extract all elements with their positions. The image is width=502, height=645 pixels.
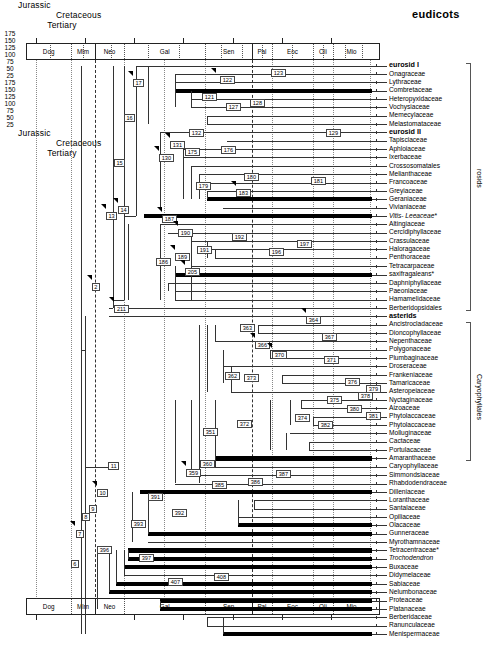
taxon-tip-mark-19 xyxy=(376,223,377,226)
node-2[interactable]: 2 xyxy=(92,283,100,291)
epoch-divider-bottom-mlm xyxy=(71,599,72,614)
node-364[interactable]: 364 xyxy=(306,316,321,324)
node-127[interactable]: 127 xyxy=(226,103,241,111)
time-guide-89 xyxy=(205,60,206,597)
node-129[interactable]: 129 xyxy=(326,129,341,137)
taxon-tip-line-55 xyxy=(372,525,387,526)
node-381[interactable]: 381 xyxy=(366,412,381,420)
taxon-label-14: Francoaceae xyxy=(389,179,428,186)
node-183[interactable]: 183 xyxy=(236,189,251,197)
branch-line-20 xyxy=(168,233,372,234)
node-186[interactable]: 186 xyxy=(156,258,171,266)
node-374[interactable]: 374 xyxy=(295,414,310,422)
node-382[interactable]: 382 xyxy=(318,421,333,429)
node-376[interactable]: 376 xyxy=(345,378,360,386)
node-179[interactable]: 179 xyxy=(196,182,211,190)
node-205[interactable]: 205 xyxy=(185,268,200,276)
taxon-tip-line-14 xyxy=(372,183,387,184)
node-351[interactable]: 351 xyxy=(203,428,218,436)
taxon-tip-mark-27 xyxy=(376,290,377,293)
node-123[interactable]: 123 xyxy=(271,69,286,77)
taxon-tip-mark-29 xyxy=(376,306,377,309)
taxon-tip-line-19 xyxy=(372,224,387,225)
range-bar-64 xyxy=(227,599,372,603)
node-407[interactable]: 407 xyxy=(168,578,183,586)
node-6[interactable]: 6 xyxy=(71,560,79,568)
taxon-tip-mark-61 xyxy=(376,574,377,577)
node-175[interactable]: 175 xyxy=(185,148,200,156)
node-7[interactable]: 7 xyxy=(76,530,84,538)
taxon-tip-line-43 xyxy=(372,425,387,426)
node-397[interactable]: 397 xyxy=(139,554,154,562)
node-130[interactable]: 130 xyxy=(159,154,174,162)
node-386[interactable]: 386 xyxy=(248,478,263,486)
taxon-tip-mark-63 xyxy=(376,591,377,594)
taxon-label-8: eurosid II xyxy=(389,129,421,136)
taxon-tip-line-58 xyxy=(372,550,387,551)
node-131[interactable]: 131 xyxy=(170,141,185,149)
node-121[interactable]: 121 xyxy=(202,93,217,101)
node-380[interactable]: 380 xyxy=(347,405,362,413)
node-359[interactable]: 359 xyxy=(186,469,201,477)
calibration-arrow-13 xyxy=(301,308,306,313)
node-17[interactable]: 17 xyxy=(133,79,144,87)
taxon-label-45: Cactaceae xyxy=(389,438,421,445)
node-371[interactable]: 371 xyxy=(324,356,339,364)
epoch-bottom-neo: Neo xyxy=(95,604,125,610)
node-128[interactable]: 128 xyxy=(250,99,265,107)
taxon-tip-mark-21 xyxy=(376,240,377,243)
node-191[interactable]: 191 xyxy=(197,246,212,254)
node-176[interactable]: 176 xyxy=(221,146,236,154)
node-14[interactable]: 14 xyxy=(118,206,129,214)
taxon-tip-mark-59 xyxy=(376,557,377,560)
taxon-label-56: Gunneraceae xyxy=(389,530,429,537)
node-11[interactable]: 11 xyxy=(108,462,119,470)
node-132[interactable]: 132 xyxy=(189,129,204,137)
node-362[interactable]: 362 xyxy=(225,372,240,380)
node-378[interactable]: 378 xyxy=(358,392,373,400)
epoch-bottom-mlm: Mlm xyxy=(71,604,95,610)
node-363[interactable]: 363 xyxy=(240,324,255,332)
node-392[interactable]: 392 xyxy=(172,509,187,517)
taxon-tip-line-6 xyxy=(372,116,387,117)
taxon-tip-line-54 xyxy=(372,517,387,518)
node-180[interactable]: 180 xyxy=(244,173,259,181)
tick-label-bottom-25: 25 xyxy=(0,121,20,128)
taxon-tip-line-10 xyxy=(372,149,387,150)
node-16[interactable]: 16 xyxy=(124,114,135,122)
tick-mark-bottom-100 xyxy=(183,615,184,620)
taxon-tip-mark-12 xyxy=(376,164,377,167)
epoch-gal: Gal xyxy=(124,49,205,55)
tree-connector-52 xyxy=(132,492,133,542)
node-373[interactable]: 373 xyxy=(244,374,259,382)
node-393[interactable]: 393 xyxy=(131,520,146,528)
node-181[interactable]: 181 xyxy=(311,177,326,185)
tree-connector-15 xyxy=(160,132,161,199)
branch-line-36 xyxy=(223,366,372,367)
node-370[interactable]: 370 xyxy=(272,351,287,359)
tree-connector-35 xyxy=(223,350,224,383)
node-391[interactable]: 391 xyxy=(148,493,163,501)
node-192[interactable]: 192 xyxy=(232,233,247,241)
node-13[interactable]: 13 xyxy=(106,212,117,220)
node-360[interactable]: 360 xyxy=(200,460,215,468)
node-197[interactable]: 197 xyxy=(297,240,312,248)
node-10[interactable]: 10 xyxy=(97,489,108,497)
node-8[interactable]: 8 xyxy=(82,513,90,521)
node-385[interactable]: 385 xyxy=(212,481,227,489)
node-196[interactable]: 196 xyxy=(269,248,284,256)
node-15[interactable]: 15 xyxy=(114,159,125,167)
node-372[interactable]: 372 xyxy=(237,420,252,428)
node-122[interactable]: 122 xyxy=(220,76,235,84)
node-387[interactable]: 387 xyxy=(276,470,291,478)
node-408[interactable]: 408 xyxy=(214,573,229,581)
node-211[interactable]: 211 xyxy=(114,305,129,313)
taxon-label-62: Sabiaceae xyxy=(389,581,420,588)
node-9[interactable]: 9 xyxy=(89,505,97,513)
node-396[interactable]: 396 xyxy=(97,546,112,554)
node-367[interactable]: 367 xyxy=(322,333,337,341)
tree-connector-17 xyxy=(136,66,137,216)
node-190[interactable]: 190 xyxy=(178,229,193,237)
node-375[interactable]: 375 xyxy=(327,396,342,404)
taxon-tip-line-53 xyxy=(372,509,387,510)
